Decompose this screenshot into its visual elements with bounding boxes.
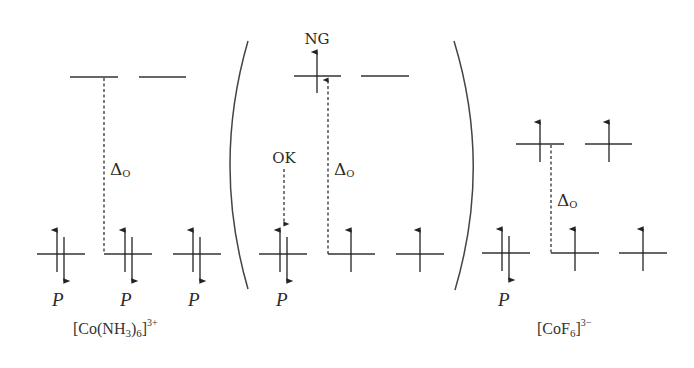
delta-o-label: ΔO <box>557 190 577 210</box>
delta-o-label: ΔO <box>334 159 354 179</box>
complex-label-co-nh3-6: [Co(NH3)6]3+ <box>73 317 158 339</box>
pairing-energy-label: P <box>275 289 288 310</box>
pairing-energy-label: P <box>119 289 132 310</box>
paired-spin-icon <box>125 230 132 281</box>
paired-spin-icon <box>502 229 509 280</box>
delta-o-label: ΔO <box>110 159 130 179</box>
group-co-nh3-6: ΔO P P P [Co(NH3)6]3+ <box>37 77 221 339</box>
ng-label: NG <box>304 30 329 48</box>
paired-spin-icon <box>57 230 64 281</box>
pairing-energy-label: P <box>187 289 200 310</box>
complex-label-cof6: [CoF6]3− <box>537 317 592 339</box>
ok-label: OK <box>272 149 296 167</box>
pairing-energy-label: P <box>497 289 510 310</box>
group-cof6: ΔO P [CoF6]3− <box>482 122 667 339</box>
paired-spin-icon <box>193 230 200 281</box>
paired-spin-icon <box>280 230 287 281</box>
pairing-energy-label: P <box>51 289 64 310</box>
right-parenthesis <box>454 41 473 290</box>
left-parenthesis <box>230 41 248 289</box>
crystal-field-diagram: ΔO P P P [Co(NH3)6]3+ NG ΔO OK P <box>0 0 694 368</box>
group-hypothetical: NG ΔO OK P <box>259 30 444 310</box>
